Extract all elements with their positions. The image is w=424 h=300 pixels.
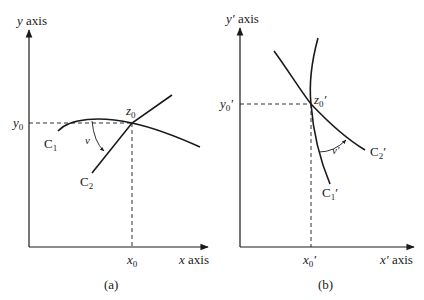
curve-c1-prime — [310, 38, 330, 184]
c2-prime-label: C2′ — [370, 145, 386, 161]
z0-label: z0 — [126, 104, 136, 120]
z0-prime-label: z0′ — [314, 93, 326, 109]
x-axis-label: x axis — [179, 253, 209, 266]
angle-arc-nu — [92, 121, 104, 151]
c2-label: C2 — [80, 175, 93, 191]
y-prime-axis-label: y′ axis — [226, 12, 259, 25]
y0-label: y0 — [13, 116, 23, 132]
x-prime-axis-label: x′ axis — [380, 253, 413, 266]
c1-prime-label: C1′ — [322, 186, 338, 202]
x0-prime-label: x0′ — [303, 253, 316, 269]
panel-b — [240, 28, 414, 247]
angle-nu-label: ν — [85, 135, 90, 146]
caption-b: (b) — [318, 278, 333, 291]
c1-label: C1 — [44, 137, 57, 153]
conformal-mapping-diagram — [0, 0, 424, 300]
y0-prime-label: y0′ — [220, 97, 233, 113]
angle-nu-prime-label: ν′ — [332, 145, 339, 156]
caption-a: (a) — [104, 278, 118, 291]
x0-label: x0 — [127, 253, 137, 269]
y-axis-label: y axis — [17, 14, 47, 27]
